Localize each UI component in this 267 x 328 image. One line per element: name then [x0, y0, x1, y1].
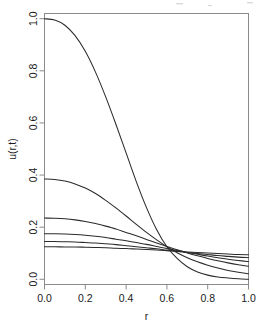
x-tick-label: 0.4: [119, 292, 134, 304]
x-tick-label: 0.6: [160, 292, 175, 304]
line-chart: 0.00.20.40.60.81.0 0.00.20.40.60.81.0 r …: [0, 0, 267, 328]
x-tick-label: 1.0: [241, 292, 256, 304]
y-tick-label: 0.0: [27, 272, 39, 287]
chart-figure: 0.00.20.40.60.81.0 0.00.20.40.60.81.0 r …: [0, 0, 267, 328]
y-tick-label: 1.0: [27, 11, 39, 26]
y-tick-label: 0.6: [27, 115, 39, 130]
x-tick-label: 0.8: [200, 292, 215, 304]
x-axis-title: r: [145, 310, 149, 322]
y-tick-label: 0.8: [27, 63, 39, 78]
y-tick-label: 0.4: [27, 168, 39, 183]
x-tick-label: 0.0: [37, 292, 52, 304]
x-tick-label: 0.2: [78, 292, 93, 304]
y-axis-title: u(r,t): [6, 138, 18, 160]
y-tick-label: 0.2: [27, 220, 39, 235]
